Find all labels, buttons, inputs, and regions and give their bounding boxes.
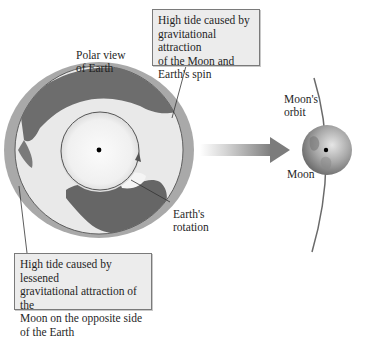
label-polar-view: Polar view of Earth (76, 49, 126, 75)
earth-globe-icon (15, 66, 183, 234)
callout-near-line3: of the Moon and (158, 55, 254, 69)
callout-far-line1: High tide caused by lessened (20, 258, 146, 285)
label-moons-orbit: Moon's orbit (284, 93, 318, 119)
label-earths-rotation-line1: Earth's (173, 208, 209, 221)
gravity-direction-arrow-icon (200, 137, 290, 163)
callout-near-line4: Earth's spin (158, 68, 254, 82)
north-pole-dot (97, 148, 102, 153)
label-moon: Moon (287, 168, 314, 181)
label-earths-rotation: Earth's rotation (173, 208, 209, 234)
callout-far-side-high-tide: High tide caused by lessened gravitation… (14, 253, 152, 310)
label-moons-orbit-line1: Moon's (284, 93, 318, 106)
callout-near-line1: High tide caused by (158, 14, 254, 28)
label-earths-rotation-line2: rotation (173, 221, 209, 234)
label-polar-view-line2: of Earth (76, 62, 126, 75)
callout-near-side-high-tide: High tide caused by gravitational attrac… (152, 9, 260, 66)
callout-far-line4: of the Earth (20, 326, 146, 339)
callout-far-line3: Moon on the opposite side (20, 312, 146, 326)
label-polar-view-line1: Polar view (76, 49, 126, 62)
callout-far-line2: gravitational attraction of the (20, 285, 146, 312)
label-moons-orbit-line2: orbit (284, 106, 318, 119)
callout-near-line2: gravitational attraction (158, 28, 254, 55)
